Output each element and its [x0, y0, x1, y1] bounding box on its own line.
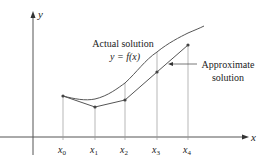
x-axis-label: x — [250, 131, 256, 143]
x-axis-arrow-icon — [242, 135, 249, 140]
y-axis: y — [31, 8, 44, 155]
x-tick-labels: x0 x1 x2 x3 x4 — [57, 144, 191, 157]
tick-label-x2: x2 — [119, 144, 128, 157]
point-x4 — [186, 43, 189, 46]
euler-method-diagram: y x Actual solution y — [0, 0, 265, 162]
actual-solution-label: Actual solution — [92, 38, 153, 49]
approximate-pointer-arrow-icon — [168, 62, 173, 66]
point-x0 — [61, 94, 64, 97]
approximate-solution-label-2: solution — [212, 72, 244, 83]
point-x2 — [123, 98, 126, 101]
x-axis: x — [0, 131, 256, 143]
point-x3 — [155, 70, 158, 73]
y-axis-label: y — [37, 8, 43, 20]
approximate-solution-label: Approximate — [202, 59, 255, 70]
point-x1 — [93, 105, 96, 108]
diagram-canvas: y x Actual solution y — [0, 0, 265, 162]
tick-label-x0: x0 — [57, 144, 66, 157]
tick-label-x4: x4 — [182, 144, 191, 157]
y-axis-arrow-icon — [31, 11, 36, 18]
actual-solution-equation: y = f(x) — [109, 51, 141, 63]
tick-label-x1: x1 — [89, 144, 98, 157]
tick-label-x3: x3 — [151, 144, 160, 157]
